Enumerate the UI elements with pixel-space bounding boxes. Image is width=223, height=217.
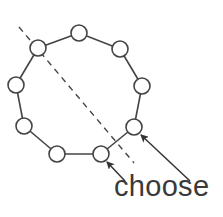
choose-label: choose [114,172,209,201]
graph-node-n6 [49,146,65,162]
graph-node-n7 [16,118,32,134]
graph-node-n3 [134,78,150,94]
graph-node-n1 [71,25,87,41]
graph-node-n9 [30,40,46,56]
graph-node-n5 [93,146,109,162]
graph-node-n2 [112,41,128,57]
graph-node-n8 [8,77,24,93]
graph-node-n4 [126,119,142,135]
nodes-group [8,25,150,162]
diagram-canvas: choose [0,0,223,217]
